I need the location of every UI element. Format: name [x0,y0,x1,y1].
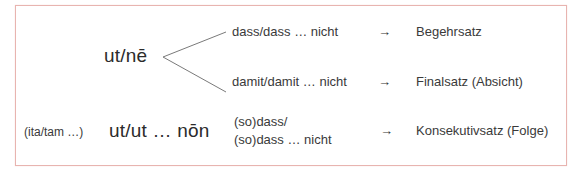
german-translation-sodass-nicht: (so)dass … nicht [234,133,332,146]
arrow-right-icon: → [378,75,391,88]
result-konsekutivsatz: Konsekutivsatz (Folge) [416,124,548,137]
result-finalsatz: Finalsatz (Absicht) [416,75,523,88]
german-translation-dass: dass/dass … nicht [232,25,338,38]
latin-prefix-ita-tam: (ita/tam …) [24,126,83,138]
latin-conjunction-ut-non: ut/ut … nōn [109,121,209,140]
result-begehrsatz: Begehrsatz [416,25,482,38]
latin-conjunction-ut-ne: ut/nē [104,46,147,65]
arrow-right-icon: → [378,25,391,38]
german-translation-damit: damit/damit … nicht [232,75,347,88]
arrow-right-icon: → [380,124,393,137]
german-translation-sodass: (so)dass/ [234,115,287,128]
